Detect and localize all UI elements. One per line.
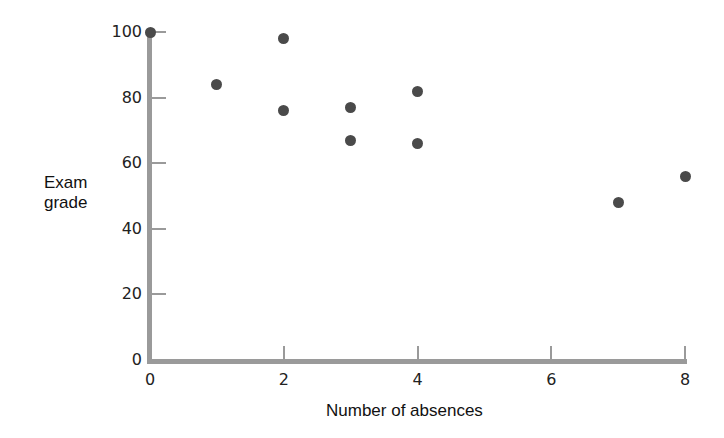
x-tick-label: 4 (403, 372, 433, 388)
y-tick-mark (152, 293, 166, 295)
y-tick-label: 40 (102, 221, 142, 237)
data-point (412, 138, 423, 149)
data-point (278, 105, 289, 116)
y-tick-mark (152, 162, 166, 164)
y-tick-label: 0 (102, 352, 142, 368)
y-tick-mark (152, 228, 166, 230)
y-axis (147, 30, 152, 362)
data-point (345, 135, 356, 146)
y-axis-title-line-2: grade (44, 193, 87, 213)
x-tick-mark (283, 346, 285, 360)
data-point (145, 27, 156, 38)
scatter-chart: 020406080100 02468 Exam grade Number of … (0, 0, 724, 438)
data-point (278, 33, 289, 44)
x-tick-mark (417, 346, 419, 360)
x-tick-label: 0 (135, 372, 165, 388)
x-tick-mark (550, 346, 552, 360)
x-tick-label: 8 (670, 372, 700, 388)
y-tick-mark (152, 97, 166, 99)
y-tick-label: 80 (102, 90, 142, 106)
x-axis-title: Number of absences (326, 401, 483, 421)
data-point (680, 171, 691, 182)
y-tick-label: 20 (102, 286, 142, 302)
data-point (613, 197, 624, 208)
y-axis-title-line-1: Exam (44, 173, 87, 193)
data-point (211, 79, 222, 90)
y-tick-label: 100 (102, 24, 142, 40)
data-point (412, 86, 423, 97)
y-axis-title: Exam grade (44, 173, 87, 213)
x-tick-mark (684, 346, 686, 360)
data-point (345, 102, 356, 113)
y-tick-label: 60 (102, 155, 142, 171)
x-tick-label: 6 (536, 372, 566, 388)
x-tick-label: 2 (269, 372, 299, 388)
